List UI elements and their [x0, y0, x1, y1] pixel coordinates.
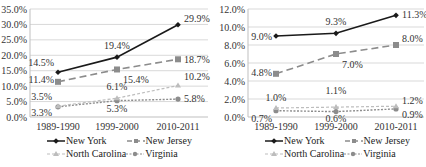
series-line-new-jersey: [276, 45, 396, 74]
legend-north-carolina-line-icon: [265, 150, 283, 158]
x-tick-label: 1989-1990: [36, 121, 79, 132]
data-label: 0.9%: [402, 109, 423, 120]
legend-item-new-jersey: New Jersey: [345, 135, 410, 146]
y-tick-label: 30.0%: [1, 19, 27, 30]
legend-label: North Carolina: [284, 148, 344, 159]
diamond-marker-icon: [333, 30, 339, 36]
data-label: 5.8%: [184, 93, 205, 104]
legend-new-york-line-icon: [47, 137, 65, 145]
legend-label: New Jersey: [364, 135, 410, 146]
y-tick-label: 0.0%: [224, 112, 245, 123]
legend-item-north-carolina: North Carolina: [47, 148, 126, 159]
diamond-marker-icon: [393, 12, 399, 18]
chart-right: 0.0%2.0%4.0%6.0%8.0%10.0%12.0%1989-19901…: [213, 0, 426, 167]
data-label: 6.1%: [107, 81, 128, 92]
data-label: 19.4%: [104, 40, 130, 51]
diamond-marker-icon: [175, 22, 181, 28]
triangle-marker-icon: [175, 83, 181, 88]
data-label: 0.7%: [251, 113, 272, 124]
y-tick-label: 35.0%: [1, 4, 27, 15]
square-marker-icon: [333, 51, 339, 57]
data-label: 9.0%: [251, 31, 272, 42]
data-label: 8.0%: [402, 33, 423, 44]
legend-label: North Carolina: [66, 148, 126, 159]
data-label: 10.2%: [184, 71, 210, 82]
data-label: 0.6%: [326, 113, 347, 124]
legend-item-new-york: New York: [47, 135, 107, 146]
y-tick-label: 2.0%: [224, 94, 245, 105]
legend-label: New Jersey: [146, 135, 192, 146]
data-label: 18.7%: [184, 54, 210, 65]
x-tick-label: 1999-2000: [95, 121, 138, 132]
data-label: 3.5%: [31, 91, 52, 102]
data-label: 3.3%: [31, 107, 52, 118]
legend-label: New York: [284, 135, 325, 146]
data-label: 1.2%: [402, 95, 423, 106]
y-tick-label: 15.0%: [1, 65, 27, 76]
y-tick-label: 6.0%: [224, 58, 245, 69]
chart-left: 0.0%5.0%10.0%15.0%20.0%25.0%30.0%35.0%19…: [0, 0, 213, 167]
legend-item-new-york: New York: [265, 135, 325, 146]
data-label: 9.3%: [326, 16, 347, 27]
chart-left-legend: New York New Jersey North Carolina Virgi…: [47, 134, 198, 160]
y-tick-label: 8.0%: [224, 40, 245, 51]
data-label: 14.5%: [28, 57, 54, 68]
legend-item-virginia: Virginia: [344, 148, 396, 159]
y-tick-label: 20.0%: [1, 50, 27, 61]
data-label: 4.8%: [251, 67, 272, 78]
data-label: 11.4%: [29, 74, 54, 85]
square-marker-icon: [114, 66, 120, 72]
y-tick-label: 5.0%: [6, 96, 27, 107]
legend-label: Virginia: [363, 148, 396, 159]
legend-virginia-line-icon: [126, 150, 144, 158]
data-label: 5.3%: [107, 103, 128, 114]
diamond-marker-icon: [273, 33, 279, 39]
chart-right-legend: New York New Jersey North Carolina Virgi…: [265, 134, 416, 160]
legend-item-new-jersey: New Jersey: [127, 135, 192, 146]
legend-north-carolina-line-icon: [47, 150, 65, 158]
y-tick-label: 4.0%: [224, 76, 245, 87]
y-tick-label: 0.0%: [6, 112, 27, 123]
square-marker-icon: [273, 71, 279, 77]
legend-item-north-carolina: North Carolina: [265, 148, 344, 159]
y-tick-label: 10.0%: [1, 81, 27, 92]
square-marker-icon: [393, 42, 399, 48]
legend-label: Virginia: [145, 148, 178, 159]
legend-label: New York: [66, 135, 107, 146]
legend-item-virginia: Virginia: [126, 148, 178, 159]
legend-new-jersey-line-icon: [345, 137, 363, 145]
data-label: 29.9%: [184, 13, 210, 24]
y-tick-label: 12.0%: [219, 4, 245, 15]
data-label: 11.3%: [402, 9, 426, 20]
data-label: 7.0%: [342, 59, 363, 70]
legend-new-york-line-icon: [265, 137, 283, 145]
legend-new-jersey-line-icon: [127, 137, 145, 145]
square-marker-icon: [55, 79, 61, 85]
x-tick-label: 2010-2011: [157, 121, 200, 132]
square-marker-icon: [175, 56, 181, 62]
x-tick-label: 2010-2011: [375, 121, 418, 132]
circle-marker-icon: [175, 97, 180, 102]
legend-virginia-line-icon: [344, 150, 362, 158]
y-tick-label: 25.0%: [1, 34, 27, 45]
data-label: 1.0%: [266, 92, 287, 103]
data-label: 1.1%: [326, 85, 347, 96]
y-tick-label: 10.0%: [219, 22, 245, 33]
